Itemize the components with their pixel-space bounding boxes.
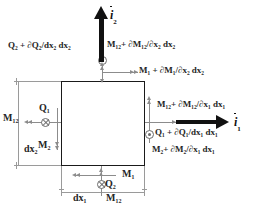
top-moment-arrowhead-inner	[130, 70, 134, 74]
dim-tick-right	[142, 189, 147, 190]
dim-extension-bottom	[14, 165, 61, 166]
top-shear-arrowhead	[100, 79, 104, 83]
unit-vector-i1-label: i1	[234, 115, 241, 131]
dim-tick-left	[59, 189, 64, 190]
top-moment-arrowhead-outer	[134, 70, 138, 74]
dim-line-vertical-dx2	[18, 81, 19, 166]
label-bottom-twist-moment: M₁₂	[106, 193, 121, 203]
right-twist-arrowhead-inner	[147, 100, 151, 104]
label-left-bending-moment: M₂	[38, 140, 50, 150]
label-dim-horizontal-dx1: dx₁	[73, 193, 87, 203]
label-right-bending-moment: M₂+ ∂M₂/∂x₁ dx₁	[152, 145, 215, 154]
bottom-twist-arrowhead-inner	[99, 172, 103, 176]
label-top-twist-moment: M₁₂+ ∂M₁₂/∂x₂ dx₂	[107, 40, 175, 49]
left-twist-arrowhead-inner	[55, 142, 59, 146]
top-twist-arrowhead-inner	[100, 66, 104, 70]
label-right-twist-moment: M₁₂+ ∂M₁₂/∂x₁ dx₁	[157, 100, 225, 109]
diagram-canvas: i2 i1 Q₂ + ∂Q₂/dx₂ dx₂ M₁₂+ ∂M₁₂/∂x₂ dx₂…	[0, 0, 262, 219]
left-twist-arrowhead-outer	[55, 146, 59, 150]
label-left-shear: Q₁	[39, 103, 50, 113]
label-right-shear: Q₁ + ∂Q₁/dx₁ dx₁	[155, 128, 218, 137]
plate-element-square	[61, 81, 145, 166]
label-top-bending-moment: M₁ + ∂M₁/∂x₂ dx₂	[139, 66, 204, 75]
unit-vector-i1-shaft	[176, 120, 218, 125]
unit-vector-i2-head	[94, 6, 108, 19]
left-shear-into-page-icon	[41, 118, 50, 127]
label-top-left-shear: Q₂ + ∂Q₂/dx₂ dx₂	[8, 41, 71, 50]
bottom-face-line	[74, 175, 116, 176]
label-left-twist-moment: M₁₂	[3, 113, 18, 123]
label-dim-vertical-dx2: dx₂	[24, 144, 38, 154]
dim-tick-top	[16, 78, 17, 85]
dim-extension-left	[61, 166, 62, 196]
unit-vector-i2-shaft	[99, 18, 104, 62]
right-shear-out-of-page-icon	[145, 130, 154, 139]
dim-tick-bottom	[16, 162, 17, 169]
label-bottom-shear: Q₂	[105, 179, 116, 189]
left-moment-arrowhead-inner	[28, 120, 32, 124]
dim-extension-top	[14, 81, 61, 82]
unit-vector-i2-label: i2	[110, 8, 117, 24]
label-bottom-bending-moment: M₁	[122, 169, 134, 179]
bottom-moment-arrowhead-inner	[76, 173, 80, 177]
dim-extension-right	[144, 166, 145, 196]
